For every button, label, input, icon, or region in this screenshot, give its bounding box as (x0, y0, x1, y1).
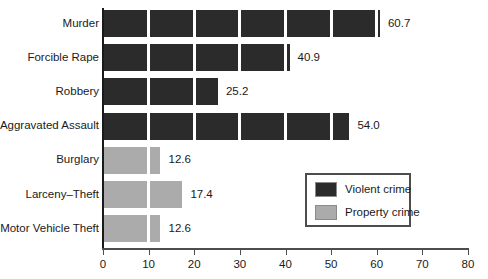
bar-segment-divider (284, 113, 287, 140)
category-label: Forcible Rape (27, 51, 99, 63)
bar-segment-divider (238, 10, 241, 37)
category-label: Burglary (56, 153, 99, 165)
x-tick-label-10: 10 (142, 258, 155, 270)
bar-segment-divider (238, 44, 241, 71)
bar-segment-divider (193, 113, 196, 140)
x-tick-20 (194, 250, 195, 255)
bar-segment-divider (147, 113, 150, 140)
bar-burglary (103, 147, 160, 174)
bar-segment-divider (193, 10, 196, 37)
value-label: 12.6 (168, 153, 190, 165)
category-label: Aggravated Assault (0, 119, 99, 131)
x-tick-label-0: 0 (100, 258, 106, 270)
legend-swatch-violent-crime (315, 182, 337, 197)
bar-segment-divider (238, 113, 241, 140)
bar-segment-divider (330, 10, 333, 37)
x-tick-label-30: 30 (233, 258, 246, 270)
legend-label-property-crime: Property crime (345, 205, 420, 220)
category-label: Motor Vehicle Theft (0, 222, 99, 234)
x-tick-label-70: 70 (416, 258, 429, 270)
x-tick-60 (377, 250, 378, 255)
x-tick-label-40: 40 (279, 258, 292, 270)
x-tick-label-50: 50 (325, 258, 338, 270)
bar-segment-divider (193, 44, 196, 71)
bar-larceny-theft (103, 181, 182, 208)
bar-chart: Murder60.7Forcible Rape40.9Robbery25.2Ag… (0, 0, 488, 279)
x-tick-80 (468, 250, 469, 255)
value-label: 12.6 (168, 222, 190, 234)
x-tick-0 (103, 250, 104, 255)
bar-segment-divider (284, 44, 287, 71)
bar-segment-divider (330, 113, 333, 140)
x-tick-label-80: 80 (462, 258, 475, 270)
bar-segment-divider (147, 78, 150, 105)
category-label: Larceny–Theft (25, 188, 99, 200)
x-tick-50 (331, 250, 332, 255)
bar-segment-divider (147, 10, 150, 37)
bar-segment-divider (284, 10, 287, 37)
value-label: 60.7 (388, 17, 410, 29)
value-label: 25.2 (226, 85, 248, 97)
category-label: Robbery (56, 85, 99, 97)
bar-motor-vehicle-theft (103, 215, 160, 242)
bar-robbery (103, 78, 218, 105)
bar-murder (103, 10, 380, 37)
bar-segment-divider (375, 10, 378, 37)
x-tick-label-60: 60 (370, 258, 383, 270)
x-tick-label-20: 20 (188, 258, 201, 270)
x-tick-70 (422, 250, 423, 255)
bar-segment-divider (193, 78, 196, 105)
y-axis-line (102, 8, 104, 249)
bar-aggravated-assault (103, 113, 349, 140)
legend-label-violent-crime: Violent crime (345, 182, 411, 197)
x-tick-40 (286, 250, 287, 255)
bar-segment-divider (147, 44, 150, 71)
legend: Violent crime Property crime (305, 173, 411, 227)
value-label: 17.4 (190, 188, 212, 200)
bar-forcible-rape (103, 44, 290, 71)
value-label: 54.0 (357, 119, 379, 131)
x-tick-10 (149, 250, 150, 255)
x-tick-30 (240, 250, 241, 255)
value-label: 40.9 (298, 51, 320, 63)
legend-swatch-property-crime (315, 205, 337, 220)
bar-segment-divider (147, 215, 150, 242)
category-label: Murder (63, 17, 99, 29)
bar-segment-divider (147, 147, 150, 174)
bar-segment-divider (147, 181, 150, 208)
